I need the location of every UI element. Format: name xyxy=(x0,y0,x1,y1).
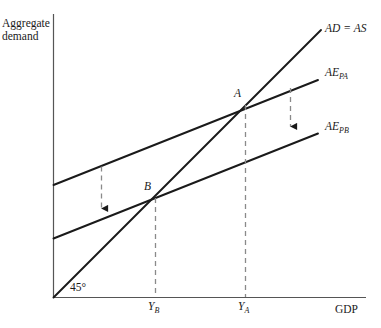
x-tick-label-yb: YB xyxy=(148,300,159,313)
yb-sub: B xyxy=(154,306,159,315)
ya-sub: A xyxy=(244,306,249,315)
point-label-a: A xyxy=(234,87,241,100)
ae-pa-curve-label: AEPA xyxy=(325,66,348,79)
ae-pb-label-sub: PB xyxy=(339,126,349,135)
ad-as-curve-label: AD = AS xyxy=(325,22,366,35)
ae-pa-label-sub: PA xyxy=(339,72,348,81)
diagram-canvas xyxy=(0,0,381,328)
ae-pb-curve-label: AEPB xyxy=(325,120,349,133)
ae-pb-label-main: AE xyxy=(325,120,339,132)
angle-45-label: 45° xyxy=(70,281,86,294)
aggregate-demand-diagram: Aggregate demand AD = AS AEPA AEPB A B 4… xyxy=(0,0,381,328)
x-tick-label-ya: YA xyxy=(238,300,249,313)
x-axis-title: GDP xyxy=(335,303,358,316)
y-axis-title-line1: Aggregate xyxy=(2,17,50,30)
ad-as-line xyxy=(54,30,322,298)
point-label-b: B xyxy=(144,180,151,193)
ae-pa-label-main: AE xyxy=(325,66,339,78)
y-axis-title-line2: demand xyxy=(2,30,50,43)
ae-pb-line xyxy=(54,134,319,239)
y-axis-title: Aggregate demand xyxy=(2,17,50,43)
ae-pa-line xyxy=(54,80,319,185)
